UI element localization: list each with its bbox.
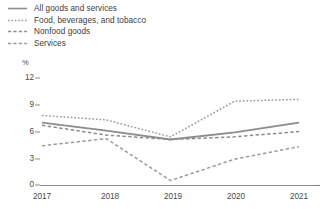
- y-tick-marks: [35, 78, 40, 185]
- series-line-services: [42, 139, 299, 181]
- plot-canvas: [0, 0, 323, 209]
- line-chart: All goods and services Food, beverages, …: [0, 0, 323, 209]
- data-series-group: [42, 99, 299, 180]
- series-line-food-beverages-and-tobacco: [42, 99, 299, 136]
